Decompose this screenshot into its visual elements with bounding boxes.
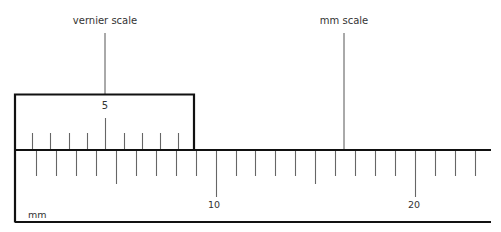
unit-label-mm: mm [28,209,47,220]
vernier-mark-5: 5 [102,100,108,111]
main-scale-ticks [37,151,476,197]
vernier-scale-label: vernier scale [73,15,137,26]
mm-scale-label: mm scale [320,15,368,26]
main-mark-10: 10 [208,199,220,210]
vernier-ticks [33,118,179,149]
vernier-caliper-diagram: vernier scale mm scale 5 10 20 mm [0,0,501,232]
main-mark-20: 20 [408,199,420,210]
